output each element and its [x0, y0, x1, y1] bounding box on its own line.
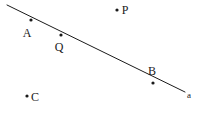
point-dot-C — [25, 94, 28, 97]
point-label-P: P — [122, 4, 129, 16]
point-dot-A — [29, 18, 32, 21]
point-dot-Q — [59, 33, 62, 36]
point-label-C: C — [31, 91, 39, 103]
point-label-B: B — [148, 65, 156, 77]
line-a — [7, 5, 185, 92]
point-dots-group — [25, 8, 154, 97]
point-label-Q: Q — [55, 41, 64, 53]
geometry-diagram: A Q B P C a — [0, 0, 200, 117]
point-label-A: A — [23, 27, 32, 39]
point-dot-P — [115, 8, 118, 11]
line-label-a: a — [187, 91, 191, 100]
point-dot-B — [151, 81, 154, 84]
